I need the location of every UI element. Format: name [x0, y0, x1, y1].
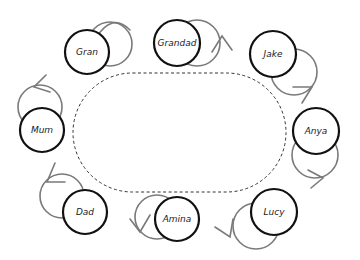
arrowhead-icon [34, 75, 50, 92]
seat-label: Amina [162, 214, 192, 224]
arrowhead-icon [212, 36, 232, 52]
arrowhead-icon [308, 170, 323, 188]
seat-label: Anya [304, 126, 328, 136]
seat-dad: Dad [40, 163, 107, 234]
seats-layer: GranGrandadJakeMumAnyaDadAminaLucy [18, 20, 339, 249]
seat-amina: Amina [130, 195, 199, 241]
seat-mum: Mum [18, 75, 64, 152]
seat-label: Jake [262, 49, 283, 59]
seat-lucy: Lucy [215, 189, 297, 249]
seat-anya: Anya [292, 108, 339, 188]
arrowhead-icon [215, 219, 233, 237]
arrowhead-icon [130, 215, 150, 232]
arrowhead-icon [47, 163, 65, 182]
seat-label: Mum [31, 125, 53, 135]
seat-label: Lucy [264, 207, 286, 217]
seat-gran: Gran [65, 22, 132, 74]
seat-grandad: Grandad [154, 20, 232, 66]
table-outline [73, 73, 286, 192]
seat-label: Dad [76, 207, 94, 217]
seat-jake: Jake [250, 31, 317, 103]
seating-diagram: GranGrandadJakeMumAnyaDadAminaLucy [0, 0, 360, 260]
seat-label: Grandad [158, 38, 197, 48]
seat-label: Gran [76, 47, 98, 57]
